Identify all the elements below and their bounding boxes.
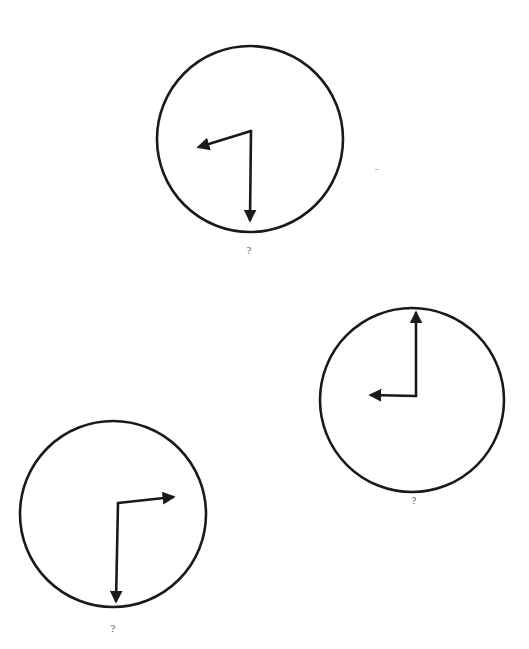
minute-hand-arrow-icon bbox=[116, 503, 118, 601]
clock-top bbox=[157, 46, 343, 232]
clock-face bbox=[20, 421, 206, 607]
hour-hand-arrow-icon bbox=[371, 395, 416, 396]
minute-hand-arrow-icon bbox=[250, 131, 251, 220]
clock-right bbox=[320, 308, 504, 492]
clock-bottom-left bbox=[20, 421, 206, 607]
clock-top-question-label: ? bbox=[247, 247, 252, 256]
hour-hand-arrow-icon bbox=[199, 131, 251, 147]
clock-bottom-left-question-label: ? bbox=[111, 625, 116, 634]
clock-right-question-label: ? bbox=[412, 497, 417, 506]
clock-diagram bbox=[0, 0, 529, 649]
clock-face bbox=[320, 308, 504, 492]
scan-speck bbox=[375, 169, 379, 170]
hour-hand-arrow-icon bbox=[118, 497, 173, 503]
